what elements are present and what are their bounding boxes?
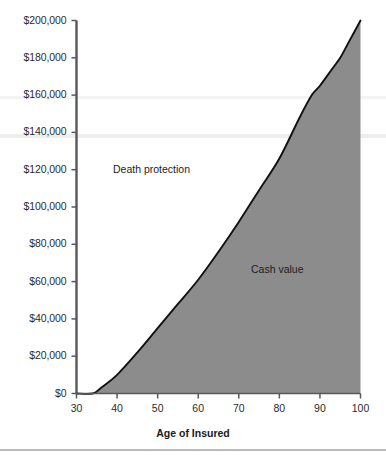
- y-axis-tick-label: $200,000: [0, 14, 67, 26]
- page-bottom-rule: [0, 449, 386, 451]
- x-axis-tick-label: 60: [178, 402, 218, 414]
- y-axis-tick-label: $160,000: [0, 88, 67, 100]
- chart-figure: $0$20,000$40,000$60,000$80,000$100,000$1…: [0, 0, 386, 456]
- y-axis-tick-label: $0: [0, 387, 67, 399]
- x-axis-tick-label: 80: [259, 402, 299, 414]
- y-axis-tick-label: $60,000: [0, 275, 67, 287]
- x-axis-tick-label: 100: [341, 402, 381, 414]
- y-axis-tick-label: $120,000: [0, 163, 67, 175]
- x-axis-title: Age of Insured: [0, 427, 386, 439]
- annotation-death-protection: Death protection: [113, 163, 190, 175]
- x-axis-tick-label: 70: [219, 402, 259, 414]
- y-axis-tick-label: $20,000: [0, 349, 67, 361]
- annotation-cash-value: Cash value: [251, 263, 304, 275]
- y-axis-tick-label: $100,000: [0, 200, 67, 212]
- x-axis-tick-label: 40: [97, 402, 137, 414]
- cash-value-area-fill: [77, 21, 361, 394]
- y-axis-tick-label: $80,000: [0, 237, 67, 249]
- x-axis-tick-label: 50: [138, 402, 178, 414]
- y-axis-tick-label: $180,000: [0, 51, 67, 63]
- x-axis-tick-label: 90: [300, 402, 340, 414]
- y-axis-tick-label: $40,000: [0, 312, 67, 324]
- y-axis-tick-label: $140,000: [0, 125, 67, 137]
- x-axis-tick-label: 30: [57, 402, 97, 414]
